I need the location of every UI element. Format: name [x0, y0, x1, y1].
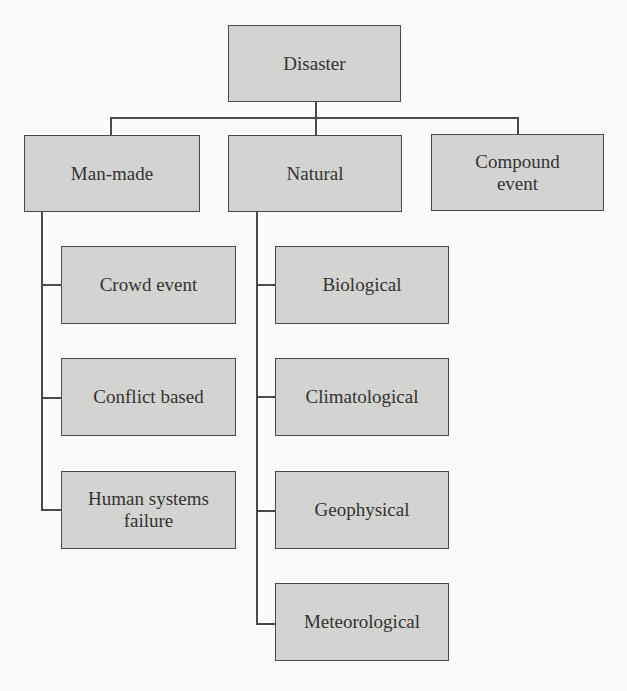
node-conflict-based: Conflict based: [61, 358, 236, 436]
node-compound-event: Compound event: [431, 134, 604, 211]
node-label: Crowd event: [100, 274, 198, 296]
node-label: Conflict based: [93, 386, 203, 408]
node-biological: Biological: [275, 246, 449, 324]
node-natural: Natural: [228, 135, 402, 212]
node-meteorological: Meteorological: [275, 583, 449, 661]
node-man-made: Man-made: [24, 135, 200, 212]
man-made-spine: [41, 211, 43, 510]
node-label: Compound event: [472, 151, 563, 195]
node-label: Natural: [287, 163, 344, 185]
node-climatological: Climatological: [275, 358, 449, 436]
connector-climatological: [256, 396, 275, 398]
node-disaster: Disaster: [228, 25, 401, 102]
connector-to-man-made: [110, 117, 112, 135]
connector-geophysical: [256, 510, 275, 512]
node-label: Disaster: [283, 53, 345, 75]
natural-spine: [256, 211, 258, 624]
connector-level1-bar: [110, 117, 518, 119]
node-label: Geophysical: [315, 499, 410, 521]
connector-to-compound-event: [517, 117, 519, 134]
node-crowd-event: Crowd event: [61, 246, 236, 324]
node-geophysical: Geophysical: [275, 471, 449, 549]
node-label: Biological: [322, 274, 401, 296]
connector-crowd-event: [41, 284, 61, 286]
connector-conflict-based: [41, 397, 61, 399]
node-human-systems-failure: Human systems failure: [61, 471, 236, 549]
node-label: Human systems failure: [74, 488, 223, 532]
node-label: Man-made: [71, 163, 153, 185]
connector-biological: [256, 284, 275, 286]
node-label: Meteorological: [304, 611, 420, 633]
node-label: Climatological: [306, 386, 419, 408]
connector-meteorological: [256, 623, 275, 625]
connector-human-systems-failure: [41, 509, 61, 511]
